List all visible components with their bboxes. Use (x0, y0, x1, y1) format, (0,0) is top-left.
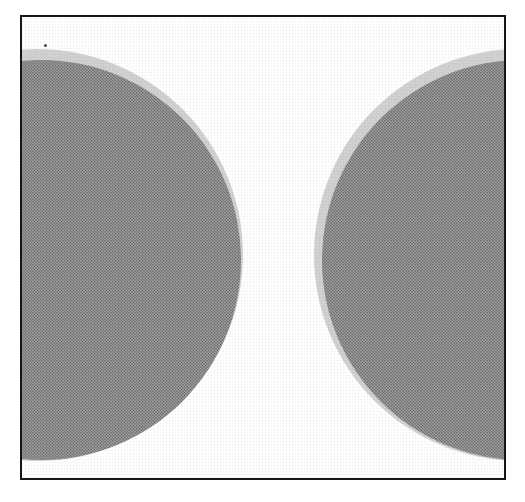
figure-page (0, 0, 525, 502)
scan-speck-icon (44, 44, 47, 47)
figure-plate (22, 17, 504, 478)
left-disc (22, 49, 243, 461)
figure-frame (20, 15, 506, 480)
right-disc (314, 49, 504, 461)
left-disc-body (22, 60, 241, 460)
right-disc-body (322, 60, 504, 460)
center-gap (219, 17, 320, 478)
